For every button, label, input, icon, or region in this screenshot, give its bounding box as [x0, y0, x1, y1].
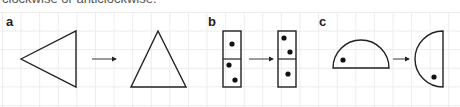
triangle-left — [21, 31, 76, 87]
semicircle-up — [333, 40, 389, 68]
diagram-canvas — [0, 0, 460, 107]
semicircle-left — [415, 31, 443, 87]
triangle-up — [131, 31, 186, 87]
domino-before — [223, 31, 241, 87]
domino-after — [278, 31, 296, 87]
